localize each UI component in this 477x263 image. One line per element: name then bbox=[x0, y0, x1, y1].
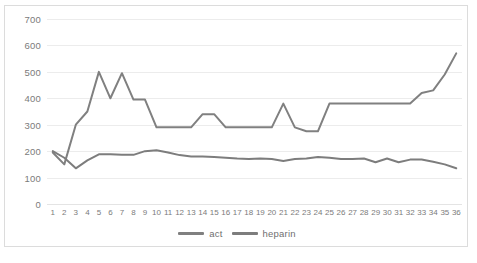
y-axis-tick-400: 400 bbox=[25, 93, 41, 104]
x-axis-tick-26: 26 bbox=[335, 206, 347, 222]
y-axis-tick-0: 0 bbox=[36, 199, 41, 210]
x-axis-tick-19: 19 bbox=[255, 206, 267, 222]
x-axis-tick-34: 34 bbox=[428, 206, 440, 222]
y-axis: 7006005004003002001000 bbox=[9, 19, 45, 204]
x-axis-tick-4: 4 bbox=[82, 206, 94, 222]
x-axis-tick-29: 29 bbox=[370, 206, 382, 222]
x-axis-tick-7: 7 bbox=[116, 206, 128, 222]
y-axis-tick-300: 300 bbox=[25, 119, 41, 130]
x-axis: 1234567891011121314151617181920212223242… bbox=[47, 206, 462, 222]
x-axis-tick-31: 31 bbox=[393, 206, 405, 222]
x-axis-tick-1: 1 bbox=[47, 206, 59, 222]
x-axis-tick-16: 16 bbox=[220, 206, 232, 222]
x-axis-tick-23: 23 bbox=[301, 206, 313, 222]
x-axis-tick-27: 27 bbox=[347, 206, 359, 222]
legend-item-heparin[interactable]: heparin bbox=[232, 228, 296, 239]
chart-container: 7006005004003002001000 12345678910111213… bbox=[4, 5, 468, 247]
x-axis-tick-3: 3 bbox=[70, 206, 82, 222]
legend-item-act[interactable]: act bbox=[178, 228, 222, 239]
legend-label-act: act bbox=[209, 228, 222, 239]
x-axis-tick-9: 9 bbox=[139, 206, 151, 222]
x-axis-tick-2: 2 bbox=[59, 206, 71, 222]
y-axis-tick-100: 100 bbox=[25, 172, 41, 183]
x-axis-tick-21: 21 bbox=[278, 206, 290, 222]
y-axis-tick-200: 200 bbox=[25, 146, 41, 157]
series-layer bbox=[47, 19, 462, 204]
gridline-0 bbox=[47, 204, 462, 205]
x-axis-tick-35: 35 bbox=[439, 206, 451, 222]
plot-area bbox=[47, 19, 462, 204]
x-axis-tick-33: 33 bbox=[416, 206, 428, 222]
y-axis-tick-600: 600 bbox=[25, 40, 41, 51]
x-axis-tick-22: 22 bbox=[289, 206, 301, 222]
chart-legend: actheparin bbox=[5, 228, 469, 239]
x-axis-tick-5: 5 bbox=[93, 206, 105, 222]
legend-label-heparin: heparin bbox=[263, 228, 296, 239]
x-axis-tick-24: 24 bbox=[312, 206, 324, 222]
x-axis-tick-14: 14 bbox=[197, 206, 209, 222]
x-axis-tick-28: 28 bbox=[358, 206, 370, 222]
x-axis-tick-17: 17 bbox=[232, 206, 244, 222]
x-axis-tick-30: 30 bbox=[381, 206, 393, 222]
legend-swatch-act bbox=[178, 232, 204, 235]
x-axis-tick-10: 10 bbox=[151, 206, 163, 222]
x-axis-tick-6: 6 bbox=[105, 206, 117, 222]
y-axis-tick-700: 700 bbox=[25, 14, 41, 25]
x-axis-tick-25: 25 bbox=[324, 206, 336, 222]
x-axis-tick-36: 36 bbox=[451, 206, 463, 222]
line-series-heparin bbox=[53, 150, 456, 168]
x-axis-tick-15: 15 bbox=[208, 206, 220, 222]
legend-swatch-heparin bbox=[232, 232, 258, 235]
line-series-act bbox=[53, 53, 456, 164]
y-axis-tick-500: 500 bbox=[25, 66, 41, 77]
x-axis-tick-18: 18 bbox=[243, 206, 255, 222]
x-axis-tick-13: 13 bbox=[185, 206, 197, 222]
x-axis-tick-20: 20 bbox=[266, 206, 278, 222]
x-axis-tick-11: 11 bbox=[162, 206, 174, 222]
x-axis-tick-8: 8 bbox=[128, 206, 140, 222]
x-axis-tick-12: 12 bbox=[174, 206, 186, 222]
x-axis-tick-32: 32 bbox=[404, 206, 416, 222]
